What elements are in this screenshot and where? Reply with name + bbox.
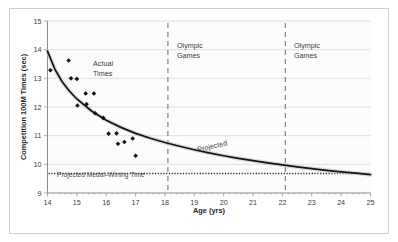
x-tick-label: 23 [308,198,316,207]
x-tick-label: 21 [249,198,257,207]
actual-times-label-line2: Times [93,69,113,78]
x-tick-label: 16 [102,198,110,207]
x-tick-marks [48,193,371,197]
olympic-games-label-1-line1: Olympic [177,41,203,50]
x-tick-label: 22 [278,198,286,207]
y-tick-marks [44,21,48,193]
chart-screenshot: 141516171819202122232425 9101112131415 A… [0,0,398,242]
y-tick-label: 13 [34,74,42,83]
x-tick-label: 15 [73,198,81,207]
medal-winning-time-label: Projected Medal–Wining Time [57,171,145,179]
y-tick-labels: 9101112131415 [34,17,42,198]
olympic-games-label-1-line2: Games [177,51,201,60]
x-axis-title: Age (yrs) [193,206,226,215]
olympic-games-label-2-line2: Games [294,51,318,60]
x-tick-label: 14 [44,198,52,207]
y-tick-label: 10 [34,160,42,169]
chart-canvas: 141516171819202122232425 9101112131415 A… [0,0,398,242]
y-tick-label: 11 [34,131,41,140]
x-tick-label: 25 [367,198,375,207]
y-tick-label: 9 [38,189,42,198]
x-tick-label: 24 [337,198,345,207]
actual-times-label-line1: Actual [93,59,113,68]
y-tick-label: 14 [34,45,42,54]
y-tick-label: 15 [34,17,42,26]
x-tick-label: 17 [132,198,140,207]
y-axis-title: Competition 100M Times (sec) [19,53,28,160]
x-tick-label: 18 [161,198,169,207]
y-tick-label: 12 [34,103,42,112]
olympic-games-label-2-line1: Olympic [294,41,320,50]
